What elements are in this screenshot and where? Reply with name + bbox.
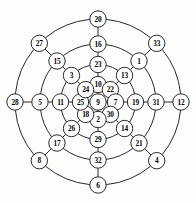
node-3[interactable]: 3 [63,67,79,83]
node-29-circle [90,131,106,147]
ring-arc-2 [78,65,90,70]
node-15[interactable]: 15 [49,53,65,69]
spoke-NE-seg-1 [116,81,119,84]
node-33[interactable]: 33 [148,35,164,51]
ring-arc-4 [106,166,150,184]
spoke-NE-seg-2 [130,67,133,70]
graph-canvas: 1022730218252423131914292611316131213217… [0,0,196,203]
ring-arc-4 [45,19,89,37]
node-20[interactable]: 20 [90,11,106,27]
ring-arc-2 [130,82,135,94]
nodes-layer: 1022730218252423131914292611316131213217… [7,11,189,193]
node-9-circle [90,94,106,110]
node-14-circle [116,120,132,136]
ring-arc-3 [106,148,133,159]
node-20-circle [90,11,106,27]
spoke-NW-seg-1 [77,81,80,84]
node-21[interactable]: 21 [131,135,147,151]
node-4[interactable]: 4 [148,152,164,168]
ring-arc-2 [106,65,118,70]
node-17[interactable]: 17 [49,135,65,151]
node-31-circle [148,94,164,110]
node-23-circle [90,56,106,72]
node-21-circle [131,135,147,151]
spoke-SE-seg-3 [145,149,151,155]
ring-arc-4 [15,49,33,93]
node-4-circle [148,152,164,168]
node-1-circle [131,53,147,69]
node-27[interactable]: 27 [31,35,47,51]
node-13-circle [116,67,132,83]
node-31[interactable]: 31 [148,94,164,110]
ring-arc-4 [162,49,180,93]
node-9[interactable]: 9 [90,94,106,110]
node-28[interactable]: 28 [7,94,23,110]
spoke-NW-seg-2 [63,67,66,70]
node-8-circle [31,152,47,168]
node-6-circle [90,177,106,193]
node-27-circle [31,35,47,51]
ring-arc-3 [106,45,133,56]
ring-arc-3 [63,45,90,56]
node-12-circle [173,94,189,110]
node-32-circle [90,152,106,168]
node-6[interactable]: 6 [90,177,106,193]
node-12[interactable]: 12 [173,94,189,110]
ring-arc-4 [15,110,33,154]
ring-arc-4 [162,110,180,154]
node-5[interactable]: 5 [32,94,48,110]
spoke-NE-seg-3 [145,49,151,55]
node-32[interactable]: 32 [90,152,106,168]
node-3-circle [63,67,79,83]
node-11[interactable]: 11 [52,94,68,110]
node-19[interactable]: 19 [127,94,143,110]
node-15-circle [49,53,65,69]
node-23[interactable]: 23 [90,56,106,72]
ring-arc-2 [130,110,135,122]
ring-arc-3 [41,67,52,94]
node-29[interactable]: 29 [90,131,106,147]
node-5-circle [32,94,48,110]
radial-graph-diagram: 1022730218252423131914292611316131213217… [0,0,196,203]
node-19-circle [127,94,143,110]
ring-arc-3 [41,110,52,137]
spoke-SW-seg-2 [63,134,66,137]
ring-arc-4 [106,19,150,37]
node-26-circle [63,120,79,136]
node-16[interactable]: 16 [90,36,106,52]
ring-arc-3 [63,148,90,159]
spoke-SW-seg-1 [77,120,80,123]
ring-arc-2 [61,82,66,94]
ring-arc-3 [144,110,155,137]
node-26[interactable]: 26 [63,120,79,136]
node-16-circle [90,36,106,52]
node-33-circle [148,35,164,51]
node-14[interactable]: 14 [116,120,132,136]
node-8[interactable]: 8 [31,152,47,168]
ring-arc-2 [78,134,90,139]
spoke-SE-seg-2 [130,134,133,137]
node-1[interactable]: 1 [131,53,147,69]
node-24-circle [77,81,93,97]
node-17-circle [49,135,65,151]
node-11-circle [52,94,68,110]
ring-arc-2 [106,134,118,139]
ring-arc-4 [45,166,89,184]
ring-arc-2 [61,110,66,122]
node-13[interactable]: 13 [116,67,132,83]
spoke-NW-seg-3 [45,49,51,55]
node-24[interactable]: 24 [77,81,93,97]
spoke-SW-seg-3 [45,149,51,155]
node-28-circle [7,94,23,110]
spoke-SE-seg-1 [116,120,119,123]
ring-arc-3 [144,67,155,94]
